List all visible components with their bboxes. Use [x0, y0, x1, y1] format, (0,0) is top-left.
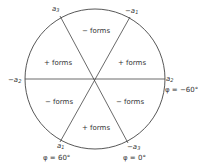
sector-upper-left-label: + forms — [44, 59, 72, 67]
label-phi-60: φ = 60° — [43, 154, 70, 162]
sector-lower-left-label: − forms — [45, 98, 73, 106]
label-neg-a2-left: −a2 — [8, 76, 21, 85]
label-a1-bottom: a1 — [57, 142, 64, 151]
label-phi-0: φ = 0° — [123, 154, 146, 162]
sector-lower-right-label: − forms — [116, 98, 144, 106]
label-a2-right: a2 — [166, 75, 173, 84]
forms-diagram — [0, 0, 198, 168]
sector-upper-right-label: + forms — [118, 59, 146, 67]
label-phi-neg60: φ = −60° — [165, 86, 198, 94]
sector-top-label: − forms — [82, 27, 110, 35]
sector-bottom-label: + forms — [82, 124, 110, 132]
label-neg-a3-bottom: −a3 — [127, 143, 140, 152]
label-neg-a1-top: −a1 — [125, 7, 138, 16]
label-a3-top: a3 — [52, 5, 59, 14]
